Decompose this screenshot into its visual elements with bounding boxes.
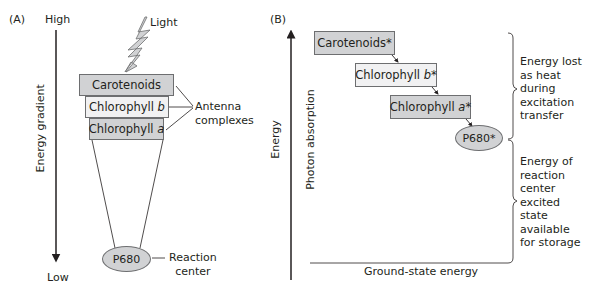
- axis-low-label: Low: [47, 271, 69, 284]
- chlorophyll-b-box: Chlorophyll b: [85, 96, 169, 118]
- brace-top: [508, 33, 517, 139]
- chlorophyll-a-excited-box: Chlorophyll a*: [390, 95, 471, 119]
- light-label: Light: [150, 16, 177, 29]
- axis-high-label: High: [45, 13, 70, 26]
- brace-bottom: [508, 140, 517, 263]
- lightning-bolt-icon: [125, 17, 150, 72]
- energy-axis-title: Energy: [269, 115, 282, 165]
- p680-excited-ellipse: P680*: [455, 125, 503, 151]
- reaction-center-label: Reaction center: [169, 251, 217, 278]
- chlorophyll-b-excited-box: Chlorophyll b*: [355, 63, 437, 87]
- panel-b-label: (B): [270, 13, 286, 26]
- energy-storage-label: Energy of reaction center excited state …: [520, 155, 580, 250]
- panel-a-label: (A): [9, 13, 25, 26]
- antenna-complexes-label: Antenna complexes: [195, 100, 254, 127]
- energy-lost-heat-label: Energy lost as heat during excitation tr…: [520, 55, 582, 123]
- photon-absorption-title: Photon absorption: [304, 85, 317, 195]
- chlorophyll-a-box: Chlorophyll a: [89, 118, 164, 140]
- diagram-lines: [0, 0, 591, 294]
- energy-gradient-title: Energy gradient: [34, 93, 47, 173]
- carotenoids-box: Carotenoids: [79, 74, 174, 96]
- p680-reaction-center: P680: [102, 246, 151, 272]
- carotenoids-excited-box: Carotenoids*: [314, 31, 395, 55]
- ground-state-label: Ground-state energy: [364, 265, 478, 278]
